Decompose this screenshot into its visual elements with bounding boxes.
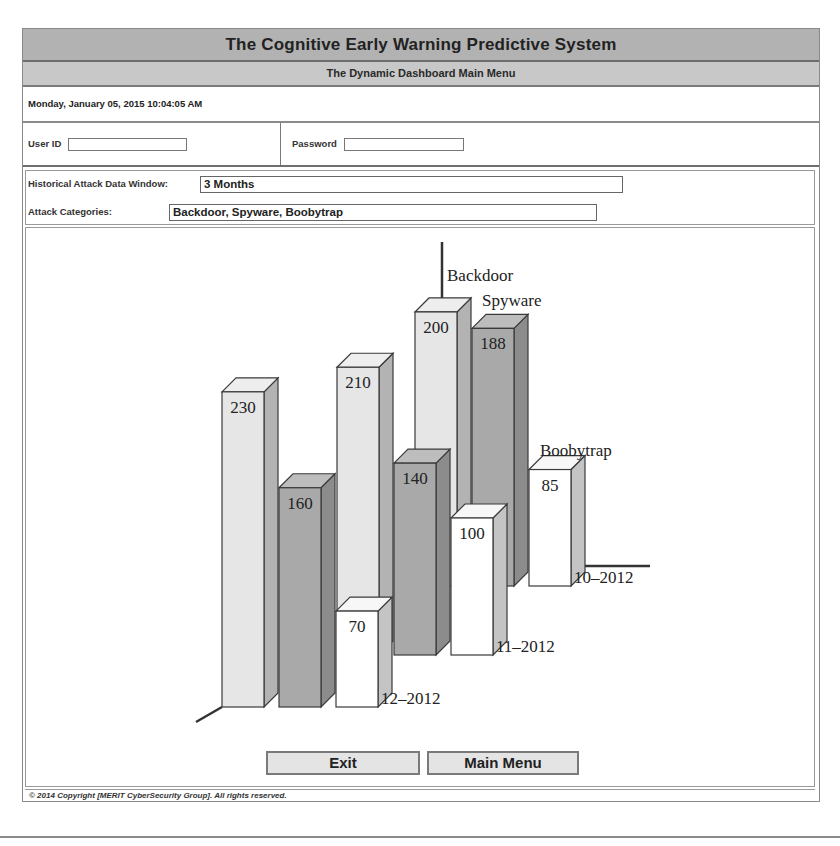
login-row: User ID Password xyxy=(23,123,819,167)
password-label: Password xyxy=(292,138,337,149)
data-window-label: Historical Attack Data Window: xyxy=(28,178,168,189)
datetime-display: Monday, January 05, 2015 10:04:05 AM xyxy=(23,87,819,123)
page-subtitle: The Dynamic Dashboard Main Menu xyxy=(23,62,819,87)
exit-button[interactable]: Exit xyxy=(266,751,420,775)
data-window-field[interactable]: 3 Months xyxy=(200,176,623,193)
app-title: The Cognitive Early Warning Predictive S… xyxy=(23,29,819,62)
attack-categories-label: Attack Categories: xyxy=(28,206,112,217)
dashboard-frame: The Cognitive Early Warning Predictive S… xyxy=(22,28,820,802)
password-cell: Password xyxy=(281,123,819,165)
user-id-cell: User ID xyxy=(23,123,281,165)
password-input[interactable] xyxy=(344,138,464,151)
query-parameters: Historical Attack Data Window: 3 Months … xyxy=(25,170,815,225)
user-id-input[interactable] xyxy=(68,138,187,151)
page-divider xyxy=(0,836,840,838)
attack-categories-field[interactable]: Backdoor, Spyware, Boobytrap xyxy=(169,204,597,221)
main-menu-button[interactable]: Main Menu xyxy=(427,751,579,775)
attack-chart-panel xyxy=(25,227,815,787)
copyright-footer: © 2014 Copyright [MERIT CyberSecurity Gr… xyxy=(25,789,815,801)
user-id-label: User ID xyxy=(28,138,61,149)
